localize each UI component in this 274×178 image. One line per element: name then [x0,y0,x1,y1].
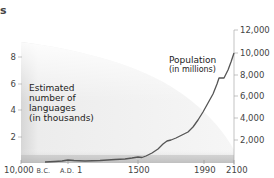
left-tick-label: 6 [2,80,16,89]
x-tick-label-1500: 1500 [128,166,150,175]
annotation-line: Estimated [29,83,94,93]
x-tick-label-10000bc: 10,000 B.C. [4,166,50,175]
x-tick-main: 10,000 [4,165,34,175]
annotation-line: (in thousands) [29,113,94,123]
annotation-line: (in millions) [169,65,216,75]
population-annotation: Population (in millions) [169,55,216,75]
x-tick-era: A.D. [60,167,74,175]
x-tick-era: B.C. [36,167,50,175]
x-tick-label-ad1: A.D. 1 [60,166,82,175]
annotation-line: Population [169,55,216,65]
left-tick-label: 2 [2,133,16,142]
x-tick-label-1990: 1990 [194,166,216,175]
languages-annotation: Estimated number of languages (in thousa… [29,83,94,123]
right-tick-label: 6,000 [240,92,264,101]
right-tick-label: 12,000 [240,26,270,35]
right-axis [234,30,238,165]
right-tick-label: 10,000 [240,49,270,58]
x-tick-label-2100: 2100 [226,166,248,175]
annotation-line: languages [29,103,94,113]
x-tick-main: 1 [77,165,82,175]
right-tick-label: 8,000 [240,71,264,80]
right-tick-label: 4,000 [240,114,264,123]
left-tick-label: 4 [2,106,16,115]
annotation-line: number of [29,93,94,103]
left-tick-label: 8 [2,53,16,62]
right-tick-label: 2,000 [240,136,264,145]
